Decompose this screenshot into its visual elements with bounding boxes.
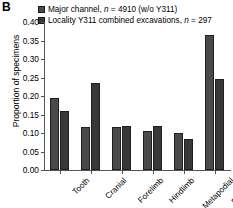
y-axis-tick-label: 0.30 <box>23 55 39 64</box>
bar <box>153 126 162 170</box>
figure-panel-b: B Major channel, n = 4910 (w/o Y311)Loca… <box>0 0 233 208</box>
bar <box>215 79 224 170</box>
y-axis-tick-label: 0.00 <box>23 166 39 175</box>
x-axis-tick-label: Metapodial <box>200 176 233 208</box>
y-axis-tick-label: 0.25 <box>23 73 39 82</box>
panel-label: B <box>2 1 11 13</box>
bar <box>184 139 193 170</box>
bar-group <box>44 22 75 170</box>
y-axis-ticks: Proportion of specimens 0.000.050.100.15… <box>0 22 44 171</box>
x-axis-tick-mark <box>184 171 185 174</box>
bar <box>205 35 214 170</box>
x-axis-tick-label: Cranial <box>103 176 128 201</box>
bar <box>81 127 90 170</box>
y-axis-tick-label: 0.20 <box>23 92 39 101</box>
bar-group <box>199 22 230 170</box>
x-axis-tick-mark <box>215 171 216 174</box>
x-axis-tick-mark <box>91 171 92 174</box>
y-axis-tick-label: 0.10 <box>23 129 39 138</box>
x-axis-tick-label: Hindlimb <box>167 176 196 205</box>
x-axis-tick-label: Forelimb <box>136 176 165 205</box>
y-axis-tick-label: 0.15 <box>23 110 39 119</box>
bar-group <box>137 22 168 170</box>
y-axis-tick-label: 0.35 <box>23 36 39 45</box>
bar <box>122 126 131 170</box>
legend-swatch-square <box>38 6 45 13</box>
bar-group <box>168 22 199 170</box>
bar <box>112 127 121 170</box>
bar-group <box>75 22 106 170</box>
bar <box>174 133 183 170</box>
bar-group <box>106 22 137 170</box>
x-axis-labels: ToothCranialForelimbHindlimbMetapodialPo… <box>44 171 230 208</box>
x-axis-tick-label: Tooth <box>70 176 91 197</box>
x-axis-tick-mark <box>122 171 123 174</box>
x-axis-tick-mark <box>60 171 61 174</box>
bar <box>60 111 69 170</box>
bar <box>91 83 100 170</box>
plot-area <box>44 22 230 170</box>
y-axis-title: Proportion of specimens <box>11 21 21 141</box>
x-axis-tick-mark <box>153 171 154 174</box>
bar <box>143 131 152 170</box>
y-axis-tick-label: 0.40 <box>23 18 39 27</box>
legend-item-label: Major channel, n = 4910 (w/o Y311) <box>48 5 177 14</box>
legend-item: Major channel, n = 4910 (w/o Y311) <box>38 4 212 14</box>
bar <box>50 98 59 170</box>
y-axis-tick-label: 0.05 <box>23 147 39 156</box>
